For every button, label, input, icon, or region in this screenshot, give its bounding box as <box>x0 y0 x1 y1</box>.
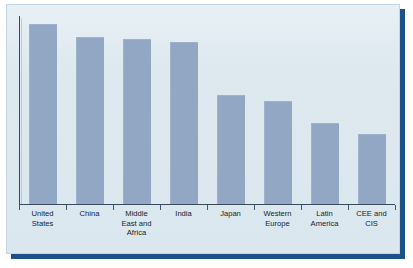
bar <box>358 134 386 204</box>
category-label-line: Western <box>254 209 301 219</box>
category-label-line: Africa <box>113 228 160 238</box>
category-label-line: Europe <box>254 219 301 229</box>
bar <box>123 39 151 204</box>
x-axis-tick <box>395 205 396 210</box>
category-label-line: Japan <box>207 209 254 219</box>
category-label-line: China <box>66 209 113 219</box>
x-axis-category-labels: UnitedStatesChinaMiddleEast andAfricaInd… <box>19 209 395 253</box>
bar <box>311 123 339 204</box>
category-label-line: Latin <box>301 209 348 219</box>
bar <box>76 37 104 204</box>
category-label: UnitedStates <box>19 209 66 228</box>
category-label: MiddleEast andAfrica <box>113 209 160 238</box>
chart-figure: UnitedStatesChinaMiddleEast andAfricaInd… <box>0 0 413 268</box>
category-label: Japan <box>207 209 254 219</box>
category-label-line: Middle <box>113 209 160 219</box>
category-label: WesternEurope <box>254 209 301 228</box>
category-label-line: States <box>19 219 66 229</box>
chart-panel: UnitedStatesChinaMiddleEast andAfricaInd… <box>6 4 400 254</box>
category-label-line: CIS <box>348 219 395 229</box>
category-label-line: United <box>19 209 66 219</box>
plot-area <box>19 16 395 210</box>
category-label: LatinAmerica <box>301 209 348 228</box>
bar <box>264 101 292 204</box>
category-label-line: CEE and <box>348 209 395 219</box>
bar <box>29 24 57 204</box>
bar <box>170 42 198 204</box>
category-label: China <box>66 209 113 219</box>
category-label-line: America <box>301 219 348 229</box>
category-label: CEE andCIS <box>348 209 395 228</box>
bar-series <box>19 16 395 204</box>
category-label-line: India <box>160 209 207 219</box>
bar <box>217 95 245 204</box>
category-label: India <box>160 209 207 219</box>
category-label-line: East and <box>113 219 160 229</box>
